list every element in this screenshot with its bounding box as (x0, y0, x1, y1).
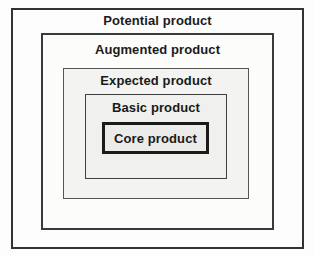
potential-product-label: Potential product (13, 10, 302, 28)
core-product-box: Core product (102, 122, 209, 154)
basic-product-label: Basic product (86, 95, 226, 115)
augmented-product-label: Augmented product (43, 35, 272, 57)
product-levels-diagram: Potential product Augmented product Expe… (0, 0, 314, 255)
expected-product-label: Expected product (64, 69, 248, 88)
core-product-label: Core product (105, 131, 206, 146)
